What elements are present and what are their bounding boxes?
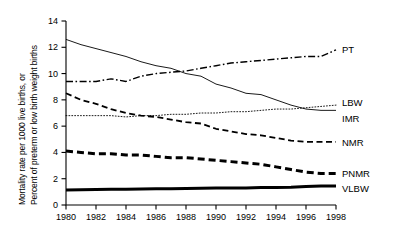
series-line-imr [66, 39, 336, 110]
series-line-pt [66, 50, 336, 82]
chart-figure: Mortality rate per 1000 live births, or … [0, 0, 400, 242]
series-line-nmr [66, 93, 336, 142]
series-line-vlbw [66, 186, 336, 190]
series-line-pnmr [66, 151, 336, 173]
axis-lines [66, 21, 336, 205]
plot-canvas [0, 0, 400, 242]
